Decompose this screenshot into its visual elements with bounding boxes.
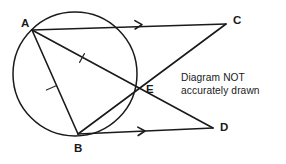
- vertex-label-e: E: [146, 83, 154, 95]
- parallel-arrow-ac-icon: [135, 21, 142, 29]
- vertex-label-d: D: [220, 121, 228, 133]
- geometry-diagram: A B C D E Diagram NOT accurately drawn: [0, 0, 286, 164]
- diagram-note-line-2: accurately drawn: [181, 85, 260, 98]
- segment-a-to-c: [32, 24, 226, 30]
- segment-a-to-b: [32, 30, 78, 134]
- vertex-label-c: C: [233, 14, 241, 26]
- equal-length-tick-ab-icon: [46, 86, 55, 90]
- diagram-note-line-1: Diagram NOT: [181, 72, 245, 85]
- vertex-label-b: B: [74, 142, 82, 154]
- vertex-label-a: A: [21, 17, 29, 29]
